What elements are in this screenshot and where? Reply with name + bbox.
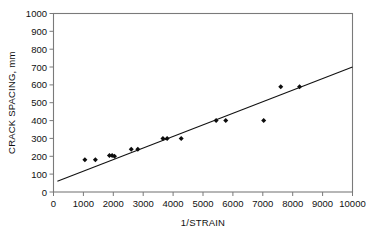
x-tick-label: 2000 bbox=[103, 198, 124, 209]
chart-container: 0 100 200 300 400 500 600 700 800 900 10… bbox=[0, 0, 381, 233]
x-tick-label: 7000 bbox=[252, 198, 273, 209]
y-tick-label: 200 bbox=[31, 151, 47, 162]
y-tick-label: 1000 bbox=[26, 8, 47, 19]
y-tick-label: 700 bbox=[31, 62, 47, 73]
x-tick-label: 0 bbox=[51, 198, 56, 209]
x-tick-label: 4000 bbox=[163, 198, 184, 209]
y-tick-label: 600 bbox=[31, 79, 47, 90]
y-axis-title: CRACK SPACING, mm bbox=[6, 51, 17, 153]
data-point bbox=[223, 118, 228, 123]
data-point bbox=[93, 157, 98, 162]
y-tick-label: 0 bbox=[42, 187, 47, 198]
trend-line bbox=[57, 67, 352, 181]
data-point bbox=[165, 136, 170, 141]
x-tick-label: 6000 bbox=[222, 198, 243, 209]
data-series-layer bbox=[57, 67, 352, 181]
data-point bbox=[278, 84, 283, 89]
x-tick-label: 10000 bbox=[339, 198, 365, 209]
y-tick-label: 300 bbox=[31, 133, 47, 144]
data-point bbox=[129, 147, 134, 152]
data-point bbox=[82, 157, 87, 162]
y-tick-label: 500 bbox=[31, 97, 47, 108]
data-point bbox=[179, 136, 184, 141]
scatter-plot: 0 100 200 300 400 500 600 700 800 900 10… bbox=[0, 0, 381, 233]
y-tick-label: 100 bbox=[31, 169, 47, 180]
x-tick-label: 9000 bbox=[312, 198, 333, 209]
x-tick-label: 1000 bbox=[73, 198, 94, 209]
y-tick-label: 400 bbox=[31, 115, 47, 126]
x-tick-label: 3000 bbox=[133, 198, 154, 209]
x-axis-title: 1/STRAIN bbox=[181, 217, 225, 228]
y-tick-label: 800 bbox=[31, 44, 47, 55]
y-axis: 0 100 200 300 400 500 600 700 800 900 10… bbox=[26, 8, 54, 198]
data-point bbox=[261, 118, 266, 123]
x-tick-label: 5000 bbox=[192, 198, 213, 209]
x-tick-label: 8000 bbox=[282, 198, 303, 209]
x-axis: 0 1000 2000 3000 4000 5000 6000 7000 800… bbox=[51, 192, 366, 209]
y-tick-label: 900 bbox=[31, 26, 47, 37]
